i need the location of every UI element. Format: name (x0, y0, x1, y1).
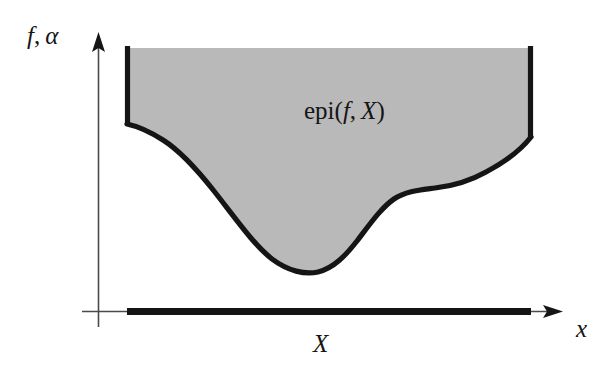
epi-suffix: ) (376, 97, 384, 124)
epigraph-region-label: epi(f, X) (304, 98, 385, 123)
epi-prefix: epi( (304, 97, 343, 124)
y-axis-label-f: f (27, 22, 34, 49)
epi-comma: , (350, 97, 356, 124)
y-axis-label-alpha: α (45, 22, 58, 49)
y-axis-label: f, α (27, 23, 58, 48)
figure-canvas (0, 0, 607, 378)
x-axis-label: x (576, 316, 587, 341)
epigraph-figure: f, α epi(f, X) X x (0, 0, 607, 378)
epi-arg-f: f (343, 97, 350, 124)
domain-label-X: X (313, 331, 328, 356)
epi-arg-X: X (361, 97, 376, 124)
y-axis-label-comma: , (34, 22, 40, 49)
